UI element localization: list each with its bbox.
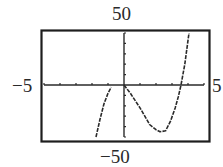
curve-main-branch [124, 33, 189, 132]
graph-plot [0, 0, 223, 167]
curve-left-branch [96, 87, 111, 137]
